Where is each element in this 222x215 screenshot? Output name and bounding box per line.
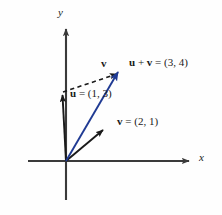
vector-v [66,130,103,161]
label-v-value: (2, 1) [134,115,158,127]
label-u-plus-v-value: (3, 4) [164,56,188,68]
label-u-plus-v: u + v = (3, 4) [129,57,188,68]
label-u: u = (1, 3) [70,88,112,99]
label-u-plus-v-plus: + [135,56,147,68]
vector-addition-figure: y x u + v = (3, 4) u = (1, 3) v v = (2, … [0,0,222,215]
label-u-value: (1, 3) [88,87,112,99]
y-axis-label: y [58,7,63,18]
label-v-equals: = [123,115,135,127]
label-u-plus-v-equals: = [152,56,164,68]
label-u-equals: = [76,87,88,99]
label-v: v = (2, 1) [117,116,158,127]
x-axis-label: x [199,152,204,163]
label-v-translated: v [101,58,107,69]
vector-u-plus-v [66,72,118,161]
vector-diagram-canvas [0,0,222,215]
